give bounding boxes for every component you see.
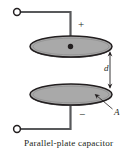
negative-terminal-node [14, 126, 21, 133]
separation-distance-label: d [104, 64, 109, 73]
bottom-plate [30, 84, 112, 106]
top-plate-connection-dot [68, 44, 73, 49]
positive-terminal-node [14, 9, 21, 16]
figure-caption: Parallel-plate capacitor [24, 139, 113, 148]
negative-sign-label: − [79, 109, 85, 120]
capacitor-diagram-svg [0, 0, 132, 152]
parallel-plate-capacitor-figure: + − d A Parallel-plate capacitor [0, 0, 132, 152]
plate-area-label: A [114, 108, 120, 117]
positive-sign-label: + [78, 19, 84, 30]
